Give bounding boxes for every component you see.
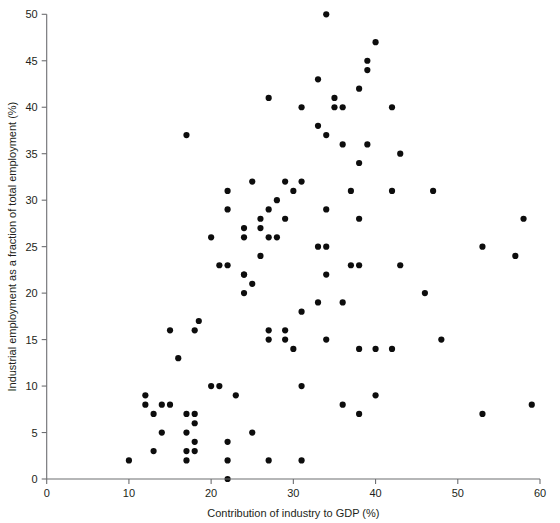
data-point [167,402,173,408]
data-point [479,411,485,417]
data-point [323,244,329,250]
data-point [290,188,296,194]
data-point [241,234,247,240]
data-point [389,104,395,110]
data-point [364,58,370,64]
data-point [208,234,214,240]
x-tick-label: 40 [369,487,381,499]
data-point [192,439,198,445]
data-point [159,402,165,408]
data-point [340,104,346,110]
x-axis-title: Contribution of industry to GDP (%) [207,507,379,519]
data-point [282,336,288,342]
data-point [196,318,202,324]
data-point [241,271,247,277]
data-point [372,392,378,398]
y-tick-label: 10 [25,380,37,392]
data-point [150,411,156,417]
data-point [224,457,230,463]
data-point [298,104,304,110]
data-point [397,262,403,268]
data-point [142,392,148,398]
data-point [520,216,526,222]
data-point [216,262,222,268]
data-point [183,132,189,138]
data-point [266,336,272,342]
data-point [224,188,230,194]
data-point [257,225,263,231]
data-point [257,253,263,259]
y-tick-label: 5 [32,427,38,439]
data-point [298,309,304,315]
y-tick-label: 40 [25,101,37,113]
data-point [159,429,165,435]
data-point [422,290,428,296]
data-point [241,225,247,231]
data-point [224,262,230,268]
data-point [331,95,337,101]
data-point [529,402,535,408]
data-point [266,457,272,463]
data-point [249,429,255,435]
data-point [266,327,272,333]
data-point-group [126,11,535,482]
data-point [340,299,346,305]
data-point [224,439,230,445]
chart-canvas: 0102030405060 05101520253035404550 Contr… [0,0,560,523]
x-tick-label: 0 [44,487,50,499]
data-point [183,411,189,417]
data-point [356,86,362,92]
x-axis-ticks: 0102030405060 [44,479,546,499]
data-point [348,262,354,268]
data-point [438,336,444,342]
x-tick-label: 20 [205,487,217,499]
data-point [356,346,362,352]
y-axis-title: Industrial employment as a fraction of t… [6,102,18,392]
data-point [233,392,239,398]
data-point [315,123,321,129]
data-point [323,336,329,342]
y-tick-label: 25 [25,241,37,253]
data-point [282,327,288,333]
y-tick-label: 0 [32,473,38,485]
data-point [150,448,156,454]
data-point [249,281,255,287]
data-point [430,188,436,194]
data-point [356,262,362,268]
data-point [340,402,346,408]
axis-group: 0102030405060 05101520253035404550 [25,8,546,499]
x-tick-label: 50 [452,487,464,499]
y-tick-label: 15 [25,334,37,346]
data-point [372,39,378,45]
data-point [183,429,189,435]
data-point [323,271,329,277]
data-point [364,67,370,73]
data-point [298,178,304,184]
data-point [356,160,362,166]
data-point [315,76,321,82]
data-point [192,420,198,426]
data-point [323,206,329,212]
data-point [389,188,395,194]
y-tick-label: 20 [25,287,37,299]
data-point [364,141,370,147]
data-point [224,206,230,212]
data-point [266,95,272,101]
data-point [216,383,222,389]
data-point [282,178,288,184]
y-tick-label: 30 [25,194,37,206]
data-point [192,411,198,417]
x-tick-label: 10 [123,487,135,499]
data-point [340,141,346,147]
data-point [167,327,173,333]
data-point [274,234,280,240]
data-point [315,299,321,305]
data-point [348,188,354,194]
data-point [208,383,214,389]
data-point [356,216,362,222]
data-point [323,132,329,138]
data-point [397,151,403,157]
x-tick-label: 60 [534,487,546,499]
data-point [192,327,198,333]
data-point [142,402,148,408]
